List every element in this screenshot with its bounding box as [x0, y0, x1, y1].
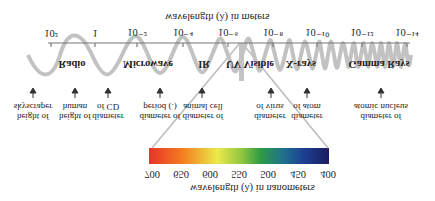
- example-label: of atom: [272, 102, 342, 111]
- meter-tick-label: 10⁻⁴: [163, 27, 203, 39]
- meter-tick-label: 10⁻²: [117, 27, 157, 39]
- example-label: diameter of: [168, 112, 238, 121]
- band-label: Radio: [32, 59, 112, 70]
- nm-tick-label: 450: [283, 169, 313, 180]
- meter-tick-label: 10²: [31, 28, 71, 39]
- nm-tick-label: 500: [253, 169, 283, 180]
- nm-tick-label: 650: [166, 169, 196, 180]
- nm-axis-title: wavelength (λ) in nanometers: [190, 183, 315, 194]
- meter-tick-label: 10⁻⁸: [253, 27, 293, 39]
- nm-tick-label: 550: [224, 169, 254, 180]
- example-label: atomic nucleus: [346, 102, 416, 111]
- example-label: diameter of: [346, 112, 416, 121]
- meter-tick-label: 1: [75, 28, 115, 39]
- band-label: Gamma Rays: [339, 59, 419, 70]
- meter-tick-label: 10⁻¹²: [342, 27, 382, 39]
- example-label: animal cell: [168, 102, 238, 111]
- visible-spectrum-bar: [149, 148, 329, 164]
- nm-tick-label: 400: [313, 169, 343, 180]
- meter-tick-label: 10⁻⁶: [208, 27, 248, 39]
- meter-axis-title: wavelength (λ) in meters: [165, 12, 270, 23]
- nm-tick-label: 600: [195, 169, 225, 180]
- meter-tick-label: 10⁻¹⁰: [297, 27, 337, 39]
- meter-tick-label: 10⁻¹⁴: [387, 27, 427, 39]
- band-label: X-rays: [261, 59, 341, 70]
- example-label: diameter: [272, 112, 342, 121]
- nm-tick-label: 700: [137, 169, 167, 180]
- em-spectrum-diagram: wavelength (λ) in nanometers 40045050055…: [0, 0, 435, 201]
